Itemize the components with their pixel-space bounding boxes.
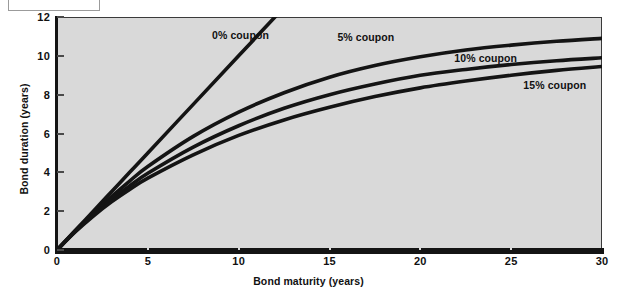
- y-axis-tick: [57, 210, 64, 212]
- y-axis-tick-label: 12: [37, 11, 50, 23]
- chart-figure: 024681012 051015202530 0% coupon5% coupo…: [0, 0, 617, 301]
- x-axis-tick: [238, 244, 240, 250]
- x-axis-tick-label: 10: [232, 255, 245, 267]
- y-axis-tick: [57, 55, 64, 57]
- series-curves: [57, 17, 602, 250]
- x-axis-tick-label: 20: [414, 255, 427, 267]
- series-line-5-coupon: [57, 38, 602, 250]
- y-axis-tick-label: 2: [44, 205, 50, 217]
- series-label-0-coupon: 0% coupon: [212, 29, 269, 41]
- y-axis-tick: [57, 133, 64, 135]
- y-axis-tick: [57, 249, 64, 251]
- y-axis-tick-label: 4: [44, 166, 50, 178]
- y-axis-tick-label: 8: [44, 89, 50, 101]
- x-axis-title: Bond maturity (years): [0, 275, 617, 287]
- series-line-0-coupon: [57, 17, 602, 250]
- x-axis-tick-label: 0: [54, 255, 60, 267]
- x-axis-tick: [419, 244, 421, 250]
- series-line-10-coupon: [57, 58, 602, 250]
- x-axis-tick-label: 15: [323, 255, 336, 267]
- y-axis-tick-label: 6: [44, 128, 50, 140]
- x-axis-tick: [329, 244, 331, 250]
- y-axis-tick-label: 0: [44, 244, 50, 256]
- corner-label-box: [8, 0, 100, 11]
- x-axis-tick: [510, 244, 512, 250]
- x-axis-tick-label: 30: [596, 255, 609, 267]
- x-axis-tick-label: 25: [505, 255, 518, 267]
- y-axis-tick: [57, 94, 64, 96]
- series-label-5-coupon: 5% coupon: [337, 31, 394, 43]
- series-label-10-coupon: 10% coupon: [454, 52, 517, 64]
- y-axis-tick: [57, 171, 64, 173]
- x-axis-tick: [147, 244, 149, 250]
- y-axis-tick-label: 10: [37, 50, 50, 62]
- y-axis-tick: [57, 16, 64, 18]
- series-label-15-coupon: 15% coupon: [523, 79, 586, 91]
- x-axis-tick-label: 5: [145, 255, 151, 267]
- y-axis-title: Bond duration (years): [18, 69, 30, 209]
